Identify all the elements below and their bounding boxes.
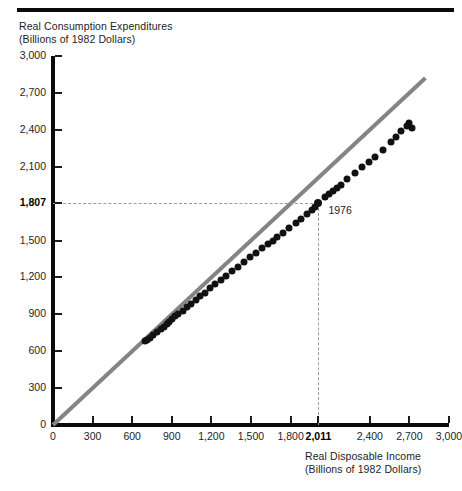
x-axis-line — [51, 423, 449, 427]
y-axis-title-line1: Real Consumption Expenditures — [19, 20, 319, 33]
y-axis-tick — [55, 166, 62, 168]
y-axis-tick-label: 1,807 — [0, 196, 46, 208]
y-axis-tick — [55, 129, 62, 131]
y-axis-tick — [55, 276, 62, 278]
data-point — [358, 164, 365, 171]
y-axis-tick — [55, 92, 62, 94]
x-axis-tick-label: 1,500 — [238, 430, 264, 442]
y-axis-tick-label: 1,500 — [0, 234, 46, 246]
y-axis-tick-label: 3,000 — [0, 49, 46, 61]
x-axis-tick — [369, 416, 371, 423]
data-point — [387, 139, 394, 146]
y-axis-title-line2: (Billions of 1982 Dollars) — [19, 33, 319, 46]
x-axis-tick-label: 600 — [123, 430, 141, 442]
data-point — [344, 176, 351, 183]
x-axis-title-line2: (Billions of 1982 Dollars) — [305, 463, 455, 476]
y-axis-tick — [55, 313, 62, 315]
data-point — [372, 153, 379, 160]
x-axis-tick — [290, 416, 292, 423]
x-axis-title: Real Disposable Income (Billions of 1982… — [305, 450, 455, 476]
data-point — [228, 268, 235, 275]
x-axis-tick-label: 1,200 — [198, 430, 224, 442]
data-point — [286, 225, 293, 232]
x-axis-tick-label: 300 — [84, 430, 102, 442]
y-axis-tick — [55, 350, 62, 352]
annotation-year-label: 1976 — [328, 204, 351, 216]
data-point — [352, 170, 359, 177]
y-axis-tick-label: 600 — [0, 344, 46, 356]
y-axis-tick — [55, 387, 62, 389]
y-axis-tick-label: 2,400 — [0, 123, 46, 135]
y-axis-tick-label: 900 — [0, 307, 46, 319]
x-axis-tick — [317, 416, 319, 423]
x-axis-tick-label: 2,011 — [306, 430, 332, 442]
x-axis-tick-label: 2,400 — [357, 430, 383, 442]
x-axis-tick — [448, 416, 450, 423]
x-axis-tick-label: 2,700 — [396, 430, 422, 442]
y-axis-tick-label: 1,200 — [0, 270, 46, 282]
forty-five-degree-reference-line — [52, 77, 427, 427]
y-axis-tick-label: 300 — [0, 381, 46, 393]
y-axis-tick — [55, 55, 62, 57]
horizontal-guide-line — [53, 203, 318, 204]
y-axis-tick-label: 2,100 — [0, 160, 46, 172]
x-axis-tick — [131, 416, 133, 423]
data-point — [298, 216, 305, 223]
vertical-guide-line — [318, 203, 319, 425]
y-axis-line — [51, 56, 55, 427]
y-axis-tick-label: 0 — [0, 418, 46, 430]
x-axis-tick-label: 3,000 — [436, 430, 462, 442]
data-point — [279, 230, 286, 237]
x-axis-tick — [210, 416, 212, 423]
y-axis-tick — [55, 240, 62, 242]
top-rule-decoration — [17, 8, 454, 12]
x-axis-tick — [92, 416, 94, 423]
x-axis-tick-label: 1,800 — [277, 430, 303, 442]
data-point — [337, 182, 344, 189]
y-axis-tick — [55, 202, 62, 204]
x-axis-tick-label: 0 — [50, 430, 56, 442]
y-axis-tick-label: 2,700 — [0, 86, 46, 98]
data-point-highlighted — [314, 199, 322, 207]
y-axis-title: Real Consumption Expenditures (Billions … — [19, 20, 319, 46]
x-axis-tick-label: 900 — [163, 430, 181, 442]
data-point — [409, 125, 416, 132]
x-axis-tick — [250, 416, 252, 423]
x-axis-title-line1: Real Disposable Income — [305, 450, 455, 463]
x-axis-tick — [171, 416, 173, 423]
x-axis-tick — [408, 416, 410, 423]
data-point — [380, 147, 387, 154]
